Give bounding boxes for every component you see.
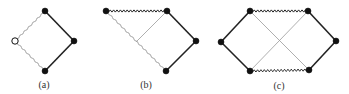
wavy-thin-edge xyxy=(15,11,45,41)
caption-a: (a) xyxy=(38,79,49,90)
filled-node xyxy=(193,38,199,44)
diagram-b xyxy=(103,8,199,74)
filled-node xyxy=(333,38,339,44)
caption-c: (c) xyxy=(273,80,284,91)
thick-edge xyxy=(167,11,196,41)
filled-node xyxy=(103,8,109,14)
wavy-thin-edge xyxy=(15,41,45,71)
thin-edge xyxy=(136,11,167,42)
filled-node xyxy=(306,67,312,73)
diagram-c xyxy=(218,8,339,74)
thick-edge xyxy=(221,42,250,71)
filled-node xyxy=(163,68,169,74)
wavy-thin-edge xyxy=(106,11,166,71)
thick-edge xyxy=(45,41,74,71)
filled-node xyxy=(164,8,170,14)
filled-node xyxy=(247,8,253,14)
filled-node xyxy=(71,38,77,44)
wavy-singularity-edge xyxy=(250,69,309,72)
penrose-diagrams-figure xyxy=(0,0,349,94)
filled-node xyxy=(42,68,48,74)
thick-edge xyxy=(221,11,250,42)
filled-node xyxy=(218,39,224,45)
caption-b: (b) xyxy=(140,79,152,90)
thick-edge xyxy=(166,41,196,71)
thick-edge xyxy=(308,11,336,41)
thick-edge xyxy=(309,41,336,70)
open-node xyxy=(12,38,18,44)
wavy-singularity-edge xyxy=(250,10,308,12)
filled-node xyxy=(42,8,48,14)
diagram-a xyxy=(12,8,77,74)
filled-node xyxy=(305,8,311,14)
thick-edge xyxy=(45,11,74,41)
filled-node xyxy=(247,68,253,74)
wavy-singularity-edge xyxy=(106,10,167,12)
